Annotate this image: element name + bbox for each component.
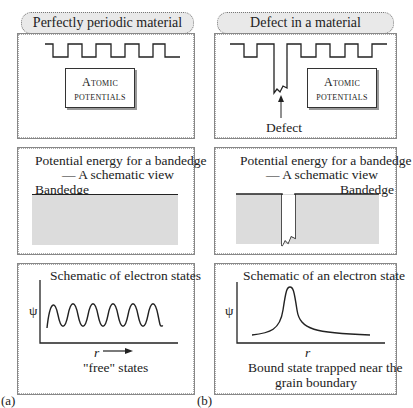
oscillating-wavefunction [47,304,163,328]
line-drawings [0,0,413,408]
periodic-potential-line [45,44,180,57]
localized-wavefunction [252,287,370,335]
defect-potential-line [230,44,387,93]
defect-arrowhead-icon [278,95,284,102]
r-arrowhead-icon [125,348,133,354]
defect-bandedge-line [236,194,379,246]
